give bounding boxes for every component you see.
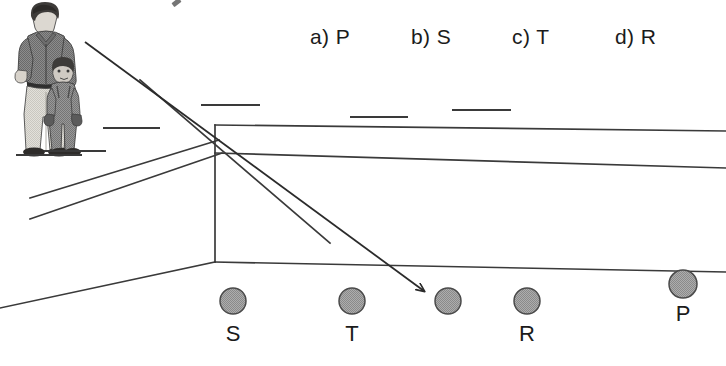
wall-top-edge <box>215 125 726 131</box>
convergence-line-lower <box>30 153 222 219</box>
construction-dashes <box>16 105 511 155</box>
ball-label-t: T <box>345 322 358 346</box>
ball-t <box>339 288 365 314</box>
ball-p <box>669 270 697 298</box>
floor-balls <box>220 270 697 314</box>
ball-label-s: S <box>226 322 241 346</box>
wall-bottom-edge <box>215 153 726 168</box>
ball-label-r: R <box>519 322 535 346</box>
perspective-lines <box>0 80 726 308</box>
sight-line-arrow <box>85 42 424 291</box>
ball-r <box>514 288 540 314</box>
scene-drawing <box>0 0 726 366</box>
ball-label-p: P <box>676 302 691 326</box>
perspective-question-figure: a) P b) S c) T d) R S T R P <box>0 0 726 366</box>
ball-s <box>220 288 246 314</box>
floor-left-edge <box>0 262 215 308</box>
man-and-child-figure <box>15 2 82 157</box>
floor-right-edge <box>215 262 726 272</box>
ball-unlabeled <box>435 288 461 314</box>
